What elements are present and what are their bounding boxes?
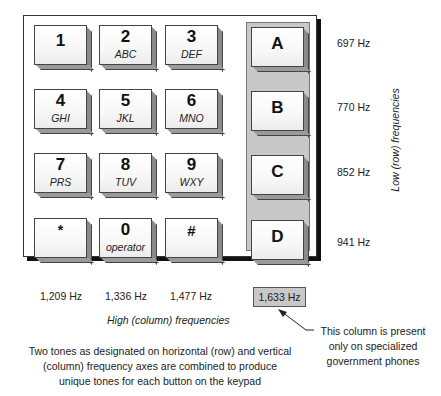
key-1[interactable]: 1 [34, 25, 87, 67]
key-digit: 2 [99, 27, 152, 47]
key-B[interactable]: B [251, 91, 304, 133]
row-freq-3: 852 Hz [337, 166, 370, 178]
row-freq-1: 697 Hz [337, 37, 370, 49]
key-4[interactable]: 4 GHI [34, 89, 87, 131]
key-digit: # [165, 222, 218, 239]
high-axis-label: High (column) frequencies [107, 314, 230, 326]
key-digit: 1 [34, 31, 87, 51]
key-D[interactable]: D [251, 220, 304, 262]
key-digit: * [34, 222, 87, 238]
key-digit: 5 [99, 91, 152, 111]
low-axis-label: Low (row) frequencies [389, 88, 401, 191]
key-letters: ABC [99, 48, 152, 60]
key-hash[interactable]: # [165, 218, 218, 260]
key-letters: GHI [34, 112, 87, 124]
key-digit: 3 [165, 27, 218, 47]
col-freq-1: 1,209 Hz [40, 290, 82, 302]
caption: Two tones as designated on horizontal (r… [20, 344, 300, 389]
key-letters: TUV [99, 176, 152, 188]
key-A[interactable]: A [251, 27, 304, 69]
key-digit: D [251, 227, 304, 247]
key-star[interactable]: * [34, 218, 87, 260]
key-3[interactable]: 3 DEF [165, 25, 218, 67]
key-5[interactable]: 5 JKL [99, 89, 152, 131]
key-6[interactable]: 6 MNO [165, 89, 218, 131]
key-digit: 4 [34, 91, 87, 111]
row-freq-4: 941 Hz [337, 236, 370, 248]
key-0[interactable]: 0 operator [99, 218, 152, 260]
key-letters: DEF [165, 48, 218, 60]
key-letters: MNO [165, 112, 218, 124]
col-freq-4-box: 1,633 Hz [253, 287, 306, 307]
key-letters: operator [99, 241, 152, 253]
key-digit: 8 [99, 155, 152, 175]
key-digit: 9 [165, 155, 218, 175]
key-C[interactable]: C [251, 155, 304, 197]
col-freq-2: 1,336 Hz [105, 290, 147, 302]
key-7[interactable]: 7 PRS [34, 153, 87, 195]
key-digit: A [251, 34, 304, 54]
key-letters: JKL [99, 112, 152, 124]
key-digit: 6 [165, 91, 218, 111]
row-freq-2: 770 Hz [337, 101, 370, 113]
col-freq-3: 1,477 Hz [170, 290, 212, 302]
government-note: This column is present only on specializ… [310, 324, 436, 369]
key-2[interactable]: 2 ABC [99, 25, 152, 67]
key-digit: 7 [34, 155, 87, 175]
key-9[interactable]: 9 WXY [165, 153, 218, 195]
key-digit: C [251, 162, 304, 182]
key-8[interactable]: 8 TUV [99, 153, 152, 195]
key-letters: PRS [34, 176, 87, 188]
key-digit: B [251, 98, 304, 118]
key-digit: 0 [99, 220, 152, 240]
key-letters: WXY [165, 176, 218, 188]
